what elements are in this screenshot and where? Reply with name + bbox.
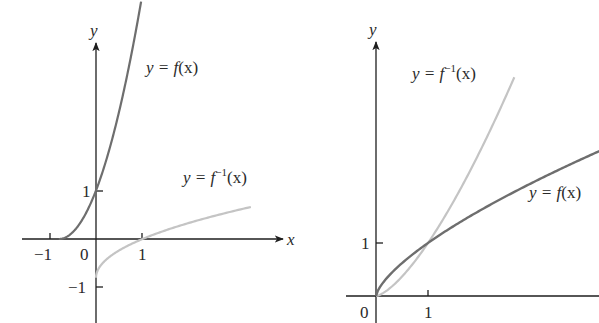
left-curve-f	[59, 2, 141, 239]
left-tick-label-x-pos1: 1	[138, 245, 147, 264]
left-label-f-inverse: y = f−1(x)	[181, 166, 247, 187]
left-curve-f-inverse	[96, 207, 251, 278]
left-y-axis-label: y	[88, 21, 98, 40]
inverse-functions-figure: y x −1 0 1 1 −1 y = f(x) y = f−1(x) y 0 …	[0, 0, 599, 323]
left-tick-label-x-neg1: −1	[34, 245, 52, 264]
right-label-f: y = f(x)	[527, 183, 581, 202]
right-label-f-inverse: y = f−1(x)	[410, 62, 476, 83]
left-tick-label-origin: 0	[80, 245, 89, 264]
right-y-axis-label: y	[367, 20, 377, 39]
right-curve-f-inverse	[376, 77, 514, 296]
left-label-f: y = f(x)	[144, 58, 198, 77]
right-tick-label-x-pos1: 1	[424, 303, 433, 322]
left-tick-label-y-neg1: −1	[68, 278, 86, 297]
right-graph: y 0 1 1 y = f−1(x) y = f(x)	[346, 20, 599, 323]
left-tick-label-y-pos1: 1	[82, 182, 91, 201]
left-x-axis-label: x	[286, 230, 295, 249]
right-curve-f	[376, 151, 599, 296]
left-graph: y x −1 0 1 1 −1 y = f(x) y = f−1(x)	[22, 2, 295, 323]
right-tick-label-origin: 0	[360, 303, 369, 322]
right-tick-label-y-pos1: 1	[361, 234, 370, 253]
